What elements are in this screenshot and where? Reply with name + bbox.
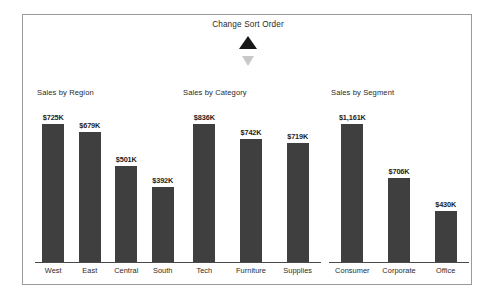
bar-series-segment: $1,161K$706K$430K bbox=[329, 104, 469, 262]
x-tick-label: South bbox=[145, 266, 182, 275]
x-axis-line-segment bbox=[329, 262, 469, 263]
x-tick-labels-segment: ConsumerCorporateOffice bbox=[329, 266, 469, 275]
x-tick-labels-region: WestEastCentralSouth bbox=[35, 266, 181, 275]
bar-group[interactable]: $430K bbox=[422, 104, 469, 262]
chart-panel-category: Sales by Category $836K$742K$719K TechFu… bbox=[181, 87, 321, 277]
bar-group[interactable]: $725K bbox=[35, 104, 72, 262]
bar-group[interactable]: $706K bbox=[376, 104, 423, 262]
bar-value-label: $706K bbox=[389, 167, 410, 176]
bar-value-label: $719K bbox=[287, 132, 308, 141]
bar-rect[interactable] bbox=[287, 143, 309, 262]
bar-value-label: $392K bbox=[152, 176, 173, 185]
x-tick-label: Office bbox=[422, 266, 469, 275]
bar-rect[interactable] bbox=[388, 178, 410, 262]
x-tick-label: East bbox=[72, 266, 109, 275]
bar-rect[interactable] bbox=[435, 211, 457, 262]
x-axis-line-category bbox=[181, 262, 321, 263]
bar-value-label: $1,161K bbox=[339, 113, 366, 122]
bar-rect[interactable] bbox=[152, 187, 174, 262]
bar-value-label: $430K bbox=[435, 200, 456, 209]
bar-value-label: $742K bbox=[241, 128, 262, 137]
bar-rect[interactable] bbox=[115, 166, 137, 261]
bar-rect[interactable] bbox=[240, 139, 262, 261]
chart-title-category: Sales by Category bbox=[183, 87, 321, 99]
bar-group[interactable]: $719K bbox=[274, 104, 321, 262]
bar-group[interactable]: $836K bbox=[181, 104, 228, 262]
bar-series-region: $725K$679K$501K$392K bbox=[35, 104, 181, 262]
bar-group[interactable]: $679K bbox=[72, 104, 109, 262]
bar-rect[interactable] bbox=[42, 124, 64, 262]
x-tick-label: Central bbox=[108, 266, 145, 275]
x-tick-label: Furniture bbox=[228, 266, 275, 275]
bar-group[interactable]: $742K bbox=[228, 104, 275, 262]
x-tick-label: Tech bbox=[181, 266, 228, 275]
triangle-up-icon[interactable] bbox=[239, 36, 257, 49]
chart-title-region: Sales by Region bbox=[37, 87, 181, 99]
bar-rect[interactable] bbox=[79, 132, 101, 261]
x-tick-label: Corporate bbox=[376, 266, 423, 275]
dashboard-frame: Change Sort Order Sales by Region $725K$… bbox=[22, 14, 472, 285]
sort-order-title: Change Sort Order bbox=[23, 19, 472, 30]
sort-order-control: Change Sort Order bbox=[23, 19, 472, 66]
bar-value-label: $836K bbox=[194, 113, 215, 122]
bar-group[interactable]: $501K bbox=[108, 104, 145, 262]
chart-panel-region: Sales by Region $725K$679K$501K$392K Wes… bbox=[35, 87, 181, 277]
bar-series-category: $836K$742K$719K bbox=[181, 104, 321, 262]
bar-value-label: $679K bbox=[79, 121, 100, 130]
x-tick-label: Supplies bbox=[274, 266, 321, 275]
x-axis-line-region bbox=[35, 262, 181, 263]
bar-group[interactable]: $392K bbox=[145, 104, 182, 262]
triangle-down-icon[interactable] bbox=[242, 56, 254, 66]
bar-rect[interactable] bbox=[193, 124, 215, 262]
bar-rect[interactable] bbox=[341, 124, 363, 262]
x-tick-label: Consumer bbox=[329, 266, 376, 275]
chart-title-segment: Sales by Segment bbox=[331, 87, 469, 99]
plot-area-region: $725K$679K$501K$392K bbox=[35, 103, 181, 263]
x-tick-labels-category: TechFurnitureSupplies bbox=[181, 266, 321, 275]
bar-value-label: $501K bbox=[116, 155, 137, 164]
plot-area-category: $836K$742K$719K bbox=[181, 103, 321, 263]
bar-group[interactable]: $1,161K bbox=[329, 104, 376, 262]
bar-value-label: $725K bbox=[43, 113, 64, 122]
plot-area-segment: $1,161K$706K$430K bbox=[329, 103, 469, 263]
x-tick-label: West bbox=[35, 266, 72, 275]
chart-panel-segment: Sales by Segment $1,161K$706K$430K Consu… bbox=[329, 87, 469, 277]
